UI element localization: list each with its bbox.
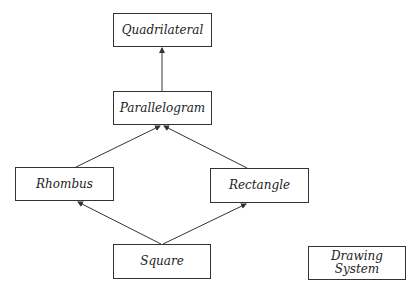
- node-label: Quadrilateral: [122, 24, 204, 37]
- node-parallelogram[interactable]: Parallelogram: [113, 91, 212, 125]
- node-rectangle[interactable]: Rectangle: [210, 168, 309, 203]
- node-label: Rectangle: [229, 179, 290, 192]
- node-label-line2: System: [335, 263, 379, 276]
- edge-square-to-rhombus: [78, 202, 161, 244]
- node-drawing-system[interactable]: Drawing System: [308, 246, 406, 280]
- node-label: Rhombus: [36, 178, 93, 191]
- node-rhombus[interactable]: Rhombus: [15, 167, 114, 201]
- node-label: Square: [140, 255, 184, 268]
- edge-rectangle-to-parallelogram: [164, 126, 247, 168]
- node-square[interactable]: Square: [113, 244, 211, 279]
- node-quadrilateral[interactable]: Quadrilateral: [113, 13, 212, 47]
- node-label: Parallelogram: [120, 102, 205, 115]
- edge-square-to-rectangle: [163, 204, 246, 244]
- diagram-canvas: Quadrilateral Parallelogram Rhombus Rect…: [0, 0, 418, 292]
- edge-rhombus-to-parallelogram: [76, 126, 160, 167]
